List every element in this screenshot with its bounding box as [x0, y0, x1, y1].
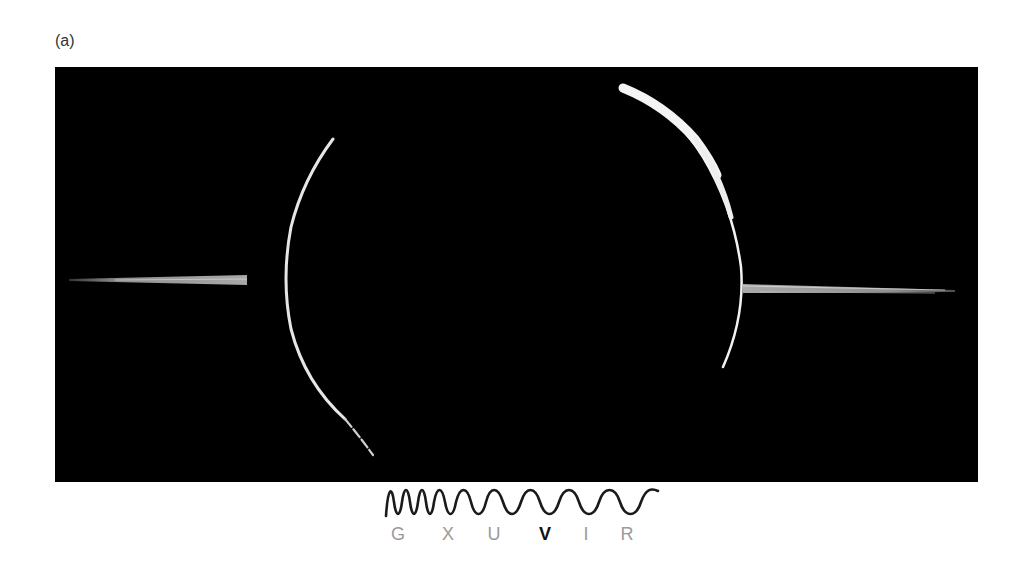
wavelength-wave-icon [380, 484, 665, 528]
band-label-v: V [539, 524, 551, 545]
right-arc [623, 87, 742, 367]
panel-label: (a) [55, 32, 75, 50]
band-label-r: R [621, 524, 634, 545]
ring-image [55, 67, 978, 482]
band-label-i: I [583, 524, 588, 545]
band-label-x: X [442, 524, 454, 545]
band-label-u: U [488, 524, 501, 545]
spectrum-band-labels: G X U V I R [0, 524, 1020, 548]
band-label-g: G [391, 524, 405, 545]
right-ring-streak [743, 284, 955, 293]
left-arc [286, 139, 373, 455]
left-ring-streak [69, 275, 247, 285]
